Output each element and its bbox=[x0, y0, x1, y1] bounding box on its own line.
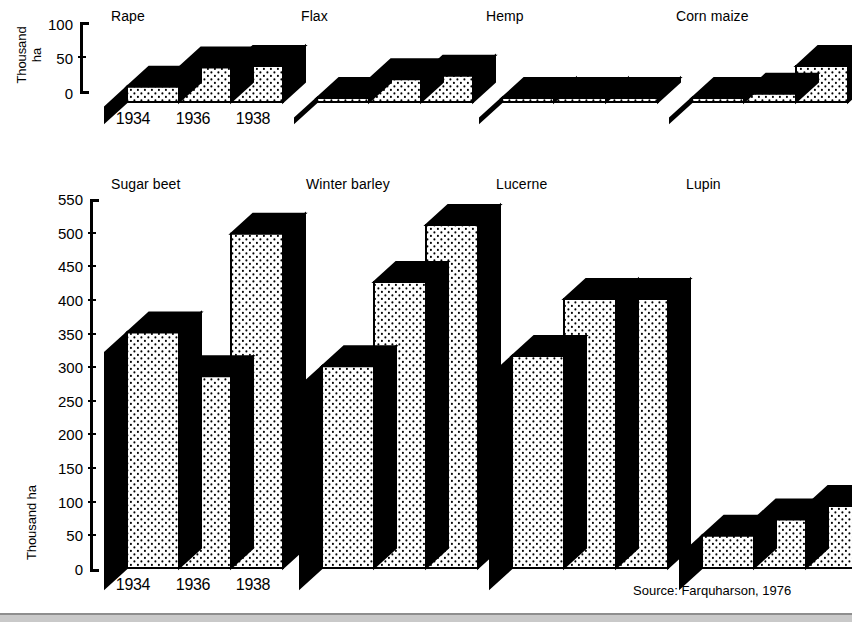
bottom-axis-label-300: 300 bbox=[58, 359, 83, 376]
bar-left-flank bbox=[490, 356, 512, 588]
bar-front-face-0 bbox=[317, 98, 369, 102]
xlabel-1936: 1936 bbox=[163, 576, 223, 594]
panel-lucerne-plot bbox=[490, 196, 670, 572]
bottom-axis-label-250: 250 bbox=[58, 392, 83, 409]
lupin-bars bbox=[680, 196, 852, 572]
bottom-axis-label-200: 200 bbox=[58, 426, 83, 443]
winter-barley-bars bbox=[300, 196, 480, 572]
panel-sugar-beet-plot bbox=[105, 196, 285, 572]
bottom-axis-tick-100 bbox=[88, 501, 96, 503]
bottom-axis-tick-300 bbox=[88, 366, 96, 368]
bottom-axis-label-150: 150 bbox=[58, 460, 83, 477]
top-axis-label-100: 100 bbox=[48, 16, 73, 33]
panel-rape-plot bbox=[105, 22, 277, 108]
bar-left-flank bbox=[680, 536, 702, 588]
top-axis-cap-upper bbox=[80, 22, 89, 25]
bottom-axis-tick-350 bbox=[88, 333, 96, 335]
bottom-axis-label-550: 550 bbox=[58, 191, 83, 208]
top-axis-title-line1: Thousand bbox=[14, 26, 29, 83]
bar-left-flank bbox=[300, 366, 322, 588]
bottom-axis-tick-50 bbox=[88, 534, 96, 536]
bottom-axis-label-50: 50 bbox=[66, 527, 83, 544]
bar-side-face-1 bbox=[616, 279, 638, 568]
bottom-axis-spine bbox=[90, 199, 93, 572]
bar-side-face-0 bbox=[179, 313, 201, 568]
bar-front-face-0 bbox=[512, 356, 564, 568]
source-note: Source: Farquharson, 1976 bbox=[633, 583, 791, 598]
bar-left-flank bbox=[295, 98, 317, 122]
corn-maize-bars bbox=[670, 22, 842, 108]
rape-bars bbox=[105, 22, 277, 108]
xlabel-1934: 1934 bbox=[103, 576, 163, 594]
footer-rule bbox=[0, 613, 852, 622]
bottom-axis-label-0: 0 bbox=[75, 561, 83, 578]
bottom-axis-label-100: 100 bbox=[58, 493, 83, 510]
panel-winter-barley-plot bbox=[300, 196, 480, 572]
sugar-beet-bars bbox=[105, 196, 285, 572]
bar-front-face-0 bbox=[322, 366, 374, 568]
bottom-axis-cap-upper bbox=[90, 199, 99, 202]
bottom-axis-title: Thousand ha bbox=[24, 485, 39, 560]
panel-sugar-beet-title: Sugar beet bbox=[111, 176, 181, 192]
bar-front-face-0 bbox=[502, 98, 554, 102]
xlabel-1936: 1936 bbox=[163, 110, 223, 128]
flax-bars bbox=[295, 22, 467, 108]
panel-hemp-plot bbox=[480, 22, 652, 108]
bottom-axis-tick-400 bbox=[88, 299, 96, 301]
xlabel-1938: 1938 bbox=[223, 110, 283, 128]
top-axis-cap-lower bbox=[80, 91, 89, 94]
top-axis-label-50: 50 bbox=[56, 50, 73, 67]
top-axis-spine bbox=[80, 22, 83, 94]
top-axis-tick-50 bbox=[78, 56, 86, 58]
bottom-axis-cap-lower bbox=[90, 569, 99, 572]
bottom-axis-label-500: 500 bbox=[58, 224, 83, 241]
xlabel-1934: 1934 bbox=[103, 110, 163, 128]
bottom-axis-tick-150 bbox=[88, 467, 96, 469]
bar-front-face-1 bbox=[554, 98, 606, 102]
bottom-axis-tick-450 bbox=[88, 265, 96, 267]
bar-front-face-0 bbox=[127, 333, 179, 568]
panel-lupin-plot bbox=[680, 196, 852, 572]
xlabel-1938: 1938 bbox=[223, 576, 283, 594]
panel-lupin-title: Lupin bbox=[686, 176, 721, 192]
bar-left-flank bbox=[105, 333, 127, 588]
top-axis-title-line2: ha bbox=[29, 48, 44, 62]
bar-left-flank bbox=[480, 98, 502, 122]
hemp-bars bbox=[480, 22, 652, 108]
panel-rape-xlabels: 1934 1936 1938 bbox=[103, 110, 283, 128]
bottom-axis-label-350: 350 bbox=[58, 325, 83, 342]
panel-lucerne-title: Lucerne bbox=[496, 176, 547, 192]
bar-side-face-1 bbox=[426, 262, 448, 568]
bottom-axis-label-450: 450 bbox=[58, 258, 83, 275]
bar-left-flank bbox=[670, 98, 692, 122]
lucerne-bars bbox=[490, 196, 670, 572]
bar-front-face-0 bbox=[127, 87, 179, 102]
bar-front-face-0 bbox=[692, 98, 744, 102]
bar-side-face-0 bbox=[374, 346, 396, 568]
panel-flax-plot bbox=[295, 22, 467, 108]
bottom-axis-title-text: Thousand ha bbox=[24, 485, 39, 560]
figure-canvas: Thousand ha 0 50 100 Rape 1934 1936 1938… bbox=[0, 0, 852, 622]
bottom-axis-tick-500 bbox=[88, 232, 96, 234]
bottom-axis-tick-250 bbox=[88, 400, 96, 402]
bar-top-face-2 bbox=[796, 46, 852, 66]
bottom-axis-tick-200 bbox=[88, 433, 96, 435]
top-axis-label-0: 0 bbox=[65, 85, 73, 102]
bar-front-face-0 bbox=[702, 536, 754, 568]
top-axis-title: Thousand ha bbox=[14, 10, 44, 100]
panel-corn-maize-plot bbox=[670, 22, 842, 108]
bar-side-face-0 bbox=[564, 336, 586, 568]
panel-winter-barley-title: Winter barley bbox=[306, 176, 390, 192]
bar-front-face-2 bbox=[606, 98, 658, 102]
bottom-axis-label-400: 400 bbox=[58, 291, 83, 308]
footer-rule-dark bbox=[0, 613, 852, 615]
panel-sugar-beet-xlabels: 1934 1936 1938 bbox=[103, 576, 283, 594]
bar-side-face-1 bbox=[231, 356, 253, 568]
